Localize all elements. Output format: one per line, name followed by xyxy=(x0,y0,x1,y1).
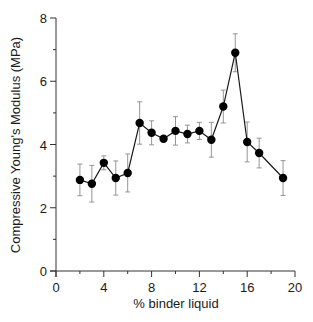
y-tick-label: 0 xyxy=(40,264,47,279)
data-point xyxy=(124,169,132,177)
data-point xyxy=(147,129,155,137)
line-chart: 04812162002468 % binder liquid Compressi… xyxy=(0,0,313,322)
data-point xyxy=(88,180,96,188)
data-point xyxy=(135,119,143,127)
y-tick-label: 8 xyxy=(40,11,47,26)
error-bars xyxy=(77,34,285,202)
data-point xyxy=(195,127,203,135)
data-point xyxy=(207,136,215,144)
data-point xyxy=(279,174,287,182)
data-point xyxy=(171,127,179,135)
x-tick-label: 8 xyxy=(148,280,155,295)
data-point xyxy=(100,159,108,167)
data-point xyxy=(231,49,239,57)
y-tick-label: 4 xyxy=(40,138,47,153)
x-axis-title: % binder liquid xyxy=(133,296,218,311)
x-tick-label: 20 xyxy=(288,280,302,295)
x-tick-label: 4 xyxy=(100,280,107,295)
y-axis-title: Compressive Young's Modulus (MPa) xyxy=(8,37,23,253)
data-point xyxy=(76,176,84,184)
data-point xyxy=(183,130,191,138)
x-tick-label: 12 xyxy=(192,280,206,295)
data-point xyxy=(243,138,251,146)
data-point xyxy=(255,149,263,157)
series-line xyxy=(80,53,283,184)
data-point xyxy=(112,174,120,182)
data-point xyxy=(219,102,227,110)
data-point xyxy=(159,135,167,143)
x-tick-label: 0 xyxy=(52,280,59,295)
x-tick-label: 16 xyxy=(240,280,254,295)
y-tick-label: 2 xyxy=(40,201,47,216)
y-tick-label: 6 xyxy=(40,74,47,89)
